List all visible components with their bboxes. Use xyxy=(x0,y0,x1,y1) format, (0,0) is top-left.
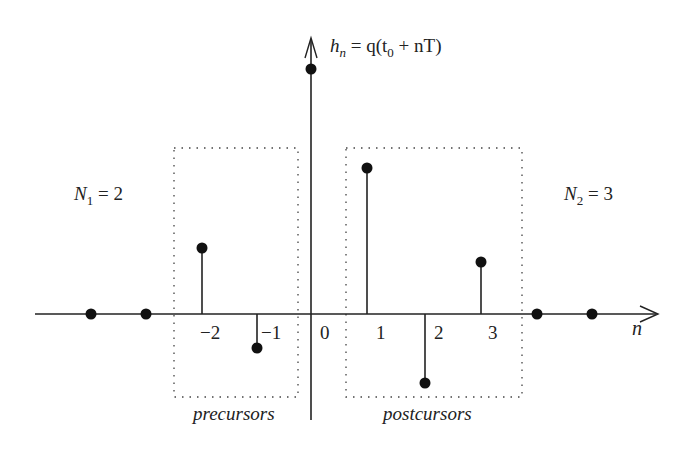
sample-points xyxy=(86,64,598,389)
tick-label-minus-1: −1 xyxy=(261,322,281,343)
tick-label-3: 3 xyxy=(488,322,498,343)
n2-label: N2 = 3 xyxy=(563,183,613,208)
postcursors-label: postcursors xyxy=(381,403,472,424)
sample-n-1 xyxy=(362,163,373,174)
tick-label-minus-2: −2 xyxy=(200,322,220,343)
sample-n-3 xyxy=(476,257,487,268)
sample-n-2 xyxy=(420,378,431,389)
sample-n-0 xyxy=(306,64,317,75)
sample-n-minus-1 xyxy=(252,343,263,354)
precursor-region-box xyxy=(174,148,298,397)
postcursor-region-box xyxy=(346,148,522,397)
y-axis-title: hn = q(t0 + nT) xyxy=(330,35,441,60)
stems xyxy=(202,168,481,383)
sample-n-minus-4 xyxy=(86,309,97,320)
tick-label-0: 0 xyxy=(320,322,330,343)
sample-n-4 xyxy=(532,309,543,320)
tick-label-1: 1 xyxy=(376,322,386,343)
n1-label: N1 = 2 xyxy=(73,183,123,208)
x-axis-label: n xyxy=(632,317,642,339)
sample-n-minus-2 xyxy=(197,243,208,254)
precursors-label: precursors xyxy=(191,403,275,424)
tick-label-2: 2 xyxy=(434,322,444,343)
pulse-samples-diagram: hn = q(t0 + nT) N1 = 2 N2 = 3 −2 −1 0 1 … xyxy=(0,0,694,454)
sample-n-minus-3 xyxy=(141,309,152,320)
sample-n-5 xyxy=(587,309,598,320)
